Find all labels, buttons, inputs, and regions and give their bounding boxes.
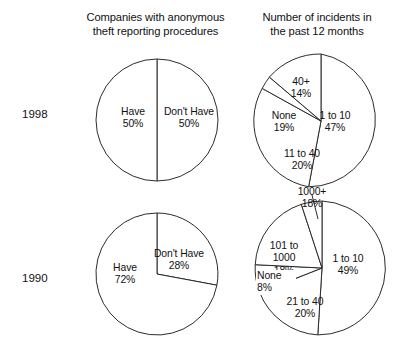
column-title-procedures-line2: theft reporting procedures: [78, 24, 233, 38]
pie-label-1998-incidents-1-to-10: 1 to 10 47%: [306, 110, 364, 135]
row-label-1998: 1998: [22, 108, 48, 120]
pie-label-1998-procedures-dont-have: Don't Have 50%: [158, 106, 220, 131]
pie-label-1998-procedures-dont-have-name: Don't Have: [158, 106, 220, 118]
pie-label-1990-incidents-21-to-40-value: 20%: [274, 308, 336, 320]
pie-label-1990-procedures-have-value: 72%: [104, 274, 146, 286]
pie-label-1998-incidents-11-to-40-value: 20%: [272, 160, 332, 172]
pie-label-1990-incidents-1000-plus-value: 18%: [283, 198, 341, 210]
pie-label-1990-incidents-101-to-1000-name2: 1000: [260, 252, 308, 264]
pie-label-1998-procedures-have-name: Have: [112, 106, 154, 118]
pie-label-1998-incidents-40-plus: 40+ 14%: [283, 76, 319, 101]
pie-label-1998-incidents-none: None 19%: [262, 110, 306, 135]
pie-label-1990-incidents-21-to-40-name: 21 to 40: [274, 296, 336, 308]
pie-label-1998-incidents-11-to-40-name: 11 to 40: [272, 148, 332, 160]
column-title-procedures: Companies with anonymous theft reporting…: [78, 10, 233, 38]
pie-label-1990-incidents-1-to-10-name: 1 to 10: [320, 253, 376, 265]
pie-label-1990-incidents-21-to-40: 21 to 40 20%: [274, 296, 336, 321]
pie-label-1990-incidents-1000-plus: 1000+ 18%: [283, 186, 341, 211]
pie-label-1990-incidents-none-name: None: [257, 270, 295, 282]
pie-label-1990-procedures-dont-have-name: Don't Have: [148, 248, 210, 260]
pie-label-1998-incidents-1-to-10-name: 1 to 10: [306, 110, 364, 122]
column-title-incidents: Number of incidents in the past 12 month…: [243, 10, 391, 38]
column-title-incidents-line2: the past 12 months: [243, 24, 391, 38]
pie-chart-figure: Companies with anonymous theft reporting…: [0, 0, 393, 339]
pie-label-1990-incidents-1-to-10-value: 49%: [320, 265, 376, 277]
pie-label-1990-incidents-1000-plus-name: 1000+: [283, 186, 341, 198]
pie-label-1998-incidents-40-plus-value: 14%: [283, 88, 319, 100]
pie-label-1998-incidents-none-value: 19%: [262, 122, 306, 134]
pie-label-1990-procedures-have: Have 72%: [104, 262, 146, 287]
pie-label-1990-incidents-none-value: 8%: [257, 282, 295, 294]
pie-label-1990-incidents-none: None 8%: [256, 270, 296, 295]
column-title-procedures-line1: Companies with anonymous: [78, 10, 233, 24]
pie-label-1998-procedures-have-value: 50%: [112, 118, 154, 130]
pie-label-1990-incidents-1-to-10: 1 to 10 49%: [320, 253, 376, 278]
pie-label-1998-procedures-have: Have 50%: [112, 106, 154, 131]
pie-label-1998-incidents-none-name: None: [262, 110, 306, 122]
pie-label-1998-incidents-40-plus-name: 40+: [283, 76, 319, 88]
row-label-1990: 1990: [22, 272, 48, 284]
pie-label-1998-procedures-dont-have-value: 50%: [158, 118, 220, 130]
pie-label-1998-incidents-1-to-10-value: 47%: [306, 122, 364, 134]
pie-label-1990-incidents-101-to-1000-name: 101 to: [260, 240, 308, 252]
pie-label-1990-procedures-dont-have: Don't Have 28%: [148, 248, 210, 273]
pie-label-1990-procedures-have-name: Have: [104, 262, 146, 274]
pie-label-1990-procedures-dont-have-value: 28%: [148, 260, 210, 272]
pie-label-1998-incidents-11-to-40: 11 to 40 20%: [272, 148, 332, 173]
column-title-incidents-line1: Number of incidents in: [243, 10, 391, 24]
